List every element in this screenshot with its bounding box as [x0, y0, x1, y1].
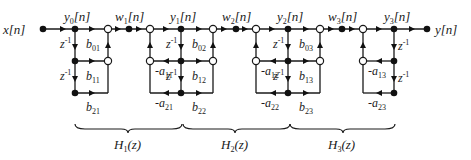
signal-label-w1: w1[n]: [115, 9, 144, 26]
arrow-right-icon: [89, 26, 95, 32]
adder-node: [209, 25, 216, 32]
arrow-down-icon: [178, 76, 184, 82]
arrow-down-icon: [285, 76, 291, 82]
coef-a11: -a11: [155, 64, 173, 80]
arrow-down-icon: [285, 44, 291, 50]
arrow-right-icon: [303, 90, 309, 96]
adder-node: [209, 57, 216, 64]
coef-b23: b23: [299, 100, 313, 116]
brace-h1: [75, 124, 182, 133]
arrow-right-icon: [303, 58, 309, 64]
coef-a22: -a22: [261, 96, 279, 112]
adder-node: [146, 25, 153, 32]
arrow-right-icon: [60, 26, 66, 32]
coef-b03: b03: [299, 37, 313, 53]
wires: [43, 29, 427, 93]
delay-node: [178, 58, 185, 65]
arrow-right-icon: [136, 26, 142, 32]
arrow-right-icon: [221, 26, 227, 32]
delay-label: z-1: [59, 36, 71, 51]
arrow-down-icon: [72, 44, 78, 50]
signal-label-y2: y2[n]: [275, 9, 303, 26]
delay-node: [178, 90, 185, 97]
arrow-up-icon: [360, 42, 366, 48]
coef-a21: -a21: [155, 96, 173, 112]
node-w1: [126, 26, 133, 33]
adder-node: [359, 57, 366, 64]
arrow-up-icon: [147, 42, 153, 48]
node-w3: [339, 26, 346, 33]
adder-node: [104, 25, 111, 32]
delay-node: [285, 90, 292, 97]
delay-label: z-1: [397, 70, 409, 85]
arrow-right-icon: [89, 90, 95, 96]
delay-node: [391, 58, 398, 65]
signal-label-w3: w3[n]: [328, 9, 357, 26]
arrow-down-icon: [178, 44, 184, 50]
arrow-right-icon: [328, 26, 334, 32]
delay-label: z-1: [397, 38, 409, 53]
arrow-right-icon: [196, 26, 202, 32]
arrow-down-icon: [391, 76, 397, 82]
brace-h3: [290, 124, 395, 133]
section-braces: [75, 124, 395, 133]
delay-node: [72, 90, 79, 97]
node-y0: [72, 26, 79, 33]
arrow-down-icon: [391, 44, 397, 50]
input-label: x[n]: [2, 22, 25, 37]
signal-label-w2: w2[n]: [222, 9, 251, 26]
node-y2: [285, 26, 292, 33]
section-label-h3: H3(z): [327, 137, 355, 154]
adder-node: [104, 57, 111, 64]
arrow-up-icon: [210, 42, 216, 48]
coef-b11: b11: [86, 69, 100, 85]
arrow-up-icon: [253, 42, 259, 48]
delay-label: z-1: [272, 36, 284, 51]
adder-node: [252, 57, 259, 64]
arrow-right-icon: [196, 90, 202, 96]
input-node: [40, 26, 47, 33]
node-w2: [233, 26, 240, 33]
delay-label: z-1: [165, 36, 177, 51]
adder-node: [359, 25, 366, 32]
coef-b21: b21: [86, 100, 100, 116]
coef-a23: -a23: [368, 96, 386, 112]
arrow-right-icon: [376, 26, 382, 32]
delay-node: [72, 58, 79, 65]
arrow-right-icon: [163, 26, 169, 32]
coef-b12: b12: [192, 69, 206, 85]
brace-h2: [183, 124, 290, 133]
cascade-filter-diagram: x[n] y[n] y0[n] w1[n] y1[n] w2[n] y2[n] …: [0, 0, 471, 160]
node-y3: [391, 26, 398, 33]
arrow-right-icon: [349, 26, 355, 32]
adder-node: [146, 57, 153, 64]
section-label-h1: H1(z): [113, 137, 141, 154]
adder-node: [316, 57, 323, 64]
output-node: [424, 26, 431, 33]
adder-node: [316, 25, 323, 32]
signal-label-y0: y0[n]: [62, 9, 90, 26]
section-label-h2: H2(z): [220, 137, 248, 154]
arrow-right-icon: [115, 26, 121, 32]
output-label: y[n]: [433, 22, 457, 37]
arrow-right-icon: [196, 58, 202, 64]
coef-b13: b13: [299, 69, 313, 85]
coef-a12: -a12: [261, 64, 279, 80]
coef-b02: b02: [192, 37, 206, 53]
arrow-up-icon: [105, 42, 111, 48]
arrow-right-icon: [269, 26, 275, 32]
delay-node: [285, 58, 292, 65]
arrow-right-icon: [242, 26, 248, 32]
node-y1: [178, 26, 185, 33]
delay-label: z-1: [59, 68, 71, 83]
signal-label-y1: y1[n]: [168, 9, 196, 26]
signal-label-y3: y3[n]: [382, 9, 410, 26]
arrow-right-icon: [303, 26, 309, 32]
coef-b01: b01: [86, 37, 100, 53]
arrow-right-icon: [89, 58, 95, 64]
feedback-labels: -a11 -a21 -a12 -a22 -a13 -a23: [155, 64, 386, 112]
coef-b22: b22: [192, 100, 206, 116]
arrow-right-icon: [409, 26, 415, 32]
arrow-down-icon: [72, 76, 78, 82]
delay-node: [391, 90, 398, 97]
